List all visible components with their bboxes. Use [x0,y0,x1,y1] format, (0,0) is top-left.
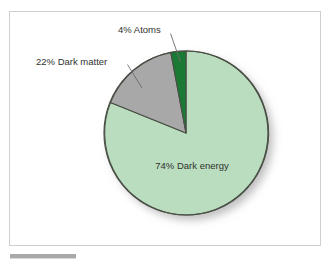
figure-root: 4% Atoms 22% Dark matter 74% Dark energy [0,0,332,262]
label-dark-matter: 22% Dark matter [36,56,107,67]
page-artifact-bar-underline [10,258,76,259]
label-dark-energy: 74% Dark energy [155,160,229,171]
pie-chart: 4% Atoms 22% Dark matter 74% Dark energy [0,0,332,262]
label-atoms: 4% Atoms [118,24,161,35]
pie-slices [104,51,269,215]
